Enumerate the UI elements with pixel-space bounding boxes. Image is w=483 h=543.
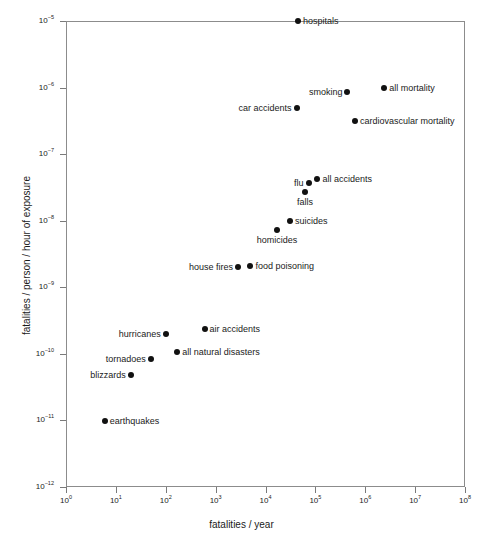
data-point-label: smoking <box>309 88 343 97</box>
data-point-label: car accidents <box>239 103 292 112</box>
data-point-label: food poisoning <box>255 261 314 270</box>
x-tick-label: 100 <box>46 496 86 505</box>
data-point-label: hurricanes <box>119 329 161 338</box>
data-point-label: falls <box>297 198 313 207</box>
y-axis-title: fatalities / person / hour of exposure <box>21 126 32 386</box>
x-tick-mark <box>465 487 466 493</box>
x-axis-title: fatalities / year <box>0 519 483 530</box>
data-point[interactable] <box>287 218 293 224</box>
data-point[interactable] <box>306 180 312 186</box>
x-tick-mark <box>365 487 366 493</box>
x-tick-label: 103 <box>196 496 236 505</box>
scatter-plot-figure: 10−510−610−710−810−910−1010−1110−12 1001… <box>0 0 483 543</box>
x-tick-label: 106 <box>345 496 385 505</box>
data-point-label: house fires <box>189 263 233 272</box>
y-tick-mark <box>60 420 66 421</box>
y-tick-label: 10−12 <box>22 483 54 491</box>
x-tick-label: 104 <box>246 496 286 505</box>
data-point-label: suicides <box>295 216 328 225</box>
x-tick-label: 107 <box>395 496 435 505</box>
y-tick-mark <box>60 88 66 89</box>
data-point[interactable] <box>128 372 134 378</box>
data-point-label: hospitals <box>303 17 339 26</box>
y-tick-mark <box>60 154 66 155</box>
y-tick-label: 10−11 <box>22 416 54 424</box>
data-point-label: earthquakes <box>110 417 160 426</box>
data-point[interactable] <box>294 105 300 111</box>
data-point-label: blizzards <box>90 371 126 380</box>
data-point[interactable] <box>302 189 308 195</box>
y-tick-mark <box>60 221 66 222</box>
data-point-label: homicides <box>257 236 298 245</box>
data-point[interactable] <box>381 85 387 91</box>
x-tick-mark <box>315 487 316 493</box>
y-tick-label: 10−5 <box>22 17 54 25</box>
data-point-label: all natural disasters <box>182 348 260 357</box>
data-point-label: tornadoes <box>106 354 146 363</box>
data-point-label: cardiovascular mortality <box>360 116 455 125</box>
x-tick-mark <box>166 487 167 493</box>
data-point[interactable] <box>148 356 154 362</box>
data-point-label: all mortality <box>389 83 435 92</box>
data-point[interactable] <box>202 326 208 332</box>
y-tick-mark <box>60 354 66 355</box>
x-tick-label: 101 <box>96 496 136 505</box>
y-tick-mark <box>60 21 66 22</box>
data-point-label: air accidents <box>210 324 261 333</box>
x-tick-mark <box>216 487 217 493</box>
x-tick-mark <box>415 487 416 493</box>
x-tick-label: 102 <box>146 496 186 505</box>
data-point[interactable] <box>274 227 280 233</box>
x-tick-mark <box>66 487 67 493</box>
x-tick-mark <box>266 487 267 493</box>
x-tick-mark <box>116 487 117 493</box>
y-tick-mark <box>60 287 66 288</box>
x-tick-label: 108 <box>445 496 483 505</box>
data-point[interactable] <box>163 331 169 337</box>
y-tick-label: 10−6 <box>22 84 54 92</box>
x-tick-label: 105 <box>295 496 335 505</box>
data-point-label: all accidents <box>322 175 372 184</box>
data-point[interactable] <box>352 118 358 124</box>
data-point-label: flu <box>294 178 304 187</box>
